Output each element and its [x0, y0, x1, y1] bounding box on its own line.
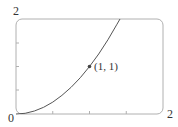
point-marker	[88, 65, 92, 69]
chart: (1, 1) 2 0 2	[0, 0, 178, 127]
y-max-label: 2	[13, 4, 19, 18]
point-label: (1, 1)	[94, 60, 118, 73]
origin-label: 0	[8, 111, 14, 125]
x-max-label: 2	[167, 107, 173, 121]
